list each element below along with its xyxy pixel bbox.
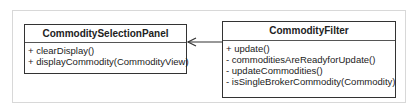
association-arrow xyxy=(0,0,420,110)
